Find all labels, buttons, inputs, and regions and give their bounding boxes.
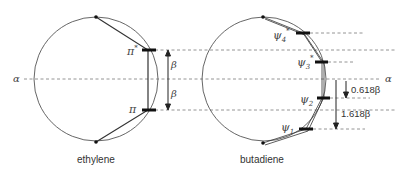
pi-star-label: π* bbox=[126, 44, 138, 58]
gap-label-0618: 0.618β bbox=[351, 84, 381, 95]
gap-label-1618: 1.618β bbox=[341, 108, 371, 119]
butadiene-caption: butadiene bbox=[240, 154, 284, 165]
psi4-label: ψ4* bbox=[273, 27, 290, 44]
psi2-label: ψ2 bbox=[300, 93, 314, 108]
butadiene-gap-arrows bbox=[334, 80, 349, 129]
psi1-label: ψ1 bbox=[281, 121, 294, 136]
ethylene-beta-arrow bbox=[166, 50, 171, 110]
ethylene-frost-circle bbox=[34, 15, 158, 144]
beta-label-upper: β bbox=[170, 59, 177, 70]
pi-label: π bbox=[128, 103, 137, 116]
ethylene-caption: ethylene bbox=[77, 154, 115, 165]
alpha-label-left: α bbox=[13, 73, 20, 84]
butadiene-frost-circle bbox=[202, 15, 330, 145]
huckel-frost-circle-diagram: α α π* π β β ψ4* ψ3* ψ2 ψ1 0.618β 1.618β… bbox=[0, 0, 407, 175]
psi3-label: ψ3* bbox=[297, 54, 314, 71]
alpha-label-right: α bbox=[385, 73, 392, 84]
beta-label-lower: β bbox=[170, 88, 177, 99]
